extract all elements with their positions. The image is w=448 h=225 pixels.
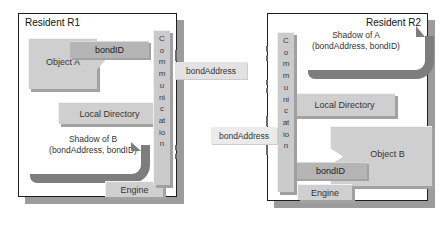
bond-id-tab-r2: bondID — [294, 162, 367, 179]
communication-label-r1: Communication — [159, 33, 166, 185]
local-directory-box-r1: Local Directory — [58, 102, 160, 124]
dashed-link-r1-top — [175, 50, 177, 61]
resident-r1-title: Resident R1 — [25, 17, 80, 28]
engine-label-r1: Engine — [120, 185, 148, 195]
bond-address-label-top: bondAddress — [175, 62, 247, 79]
engine-box-r2: Engine — [297, 184, 352, 200]
dashed-link-r2-bottom-a — [266, 116, 268, 126]
object-a-connector-wedge — [95, 56, 109, 72]
communication-label-r2: Communication — [283, 35, 290, 192]
dashed-link-r2-bottom-b — [266, 145, 268, 155]
shadow-of-b-line1: Shadow of B — [31, 134, 155, 145]
resident-r1-box: Resident R1 Object A bondID Local Direct… — [18, 13, 177, 197]
bond-id-label-r2: bondID — [316, 166, 345, 176]
dashed-link-r2-top-b — [266, 80, 268, 93]
object-a-label: Object A — [46, 57, 80, 67]
bond-address-text-bottom: bondAddress — [219, 131, 269, 141]
bond-address-label-bottom: bondAddress — [211, 127, 277, 144]
communication-bar-r1: Communication — [153, 30, 170, 185]
bond-id-tab-r1: bondID — [70, 41, 149, 58]
diagram-canvas: Resident R1 Object A bondID Local Direct… — [0, 0, 448, 225]
dashed-link-r2-top-a — [266, 46, 268, 61]
bond-id-label-r1: bondID — [95, 45, 124, 55]
dashed-link-r1-bottom — [175, 145, 177, 159]
local-directory-label-r1: Local Directory — [79, 109, 139, 119]
resident-r2-box: Resident R2 Communication Shadow of A (b… — [267, 13, 428, 201]
communication-bar-r2: Communication — [277, 32, 294, 192]
bond-address-text-top: bondAddress — [186, 66, 236, 76]
shadow-of-a-swoosh — [308, 36, 434, 79]
resident-r2-title: Resident R2 — [366, 17, 421, 28]
local-directory-label-r2: Local Directory — [314, 100, 374, 110]
local-directory-box-r2: Local Directory — [293, 93, 395, 116]
engine-label-r2: Engine — [311, 188, 339, 198]
object-b-label: Object B — [370, 149, 405, 159]
